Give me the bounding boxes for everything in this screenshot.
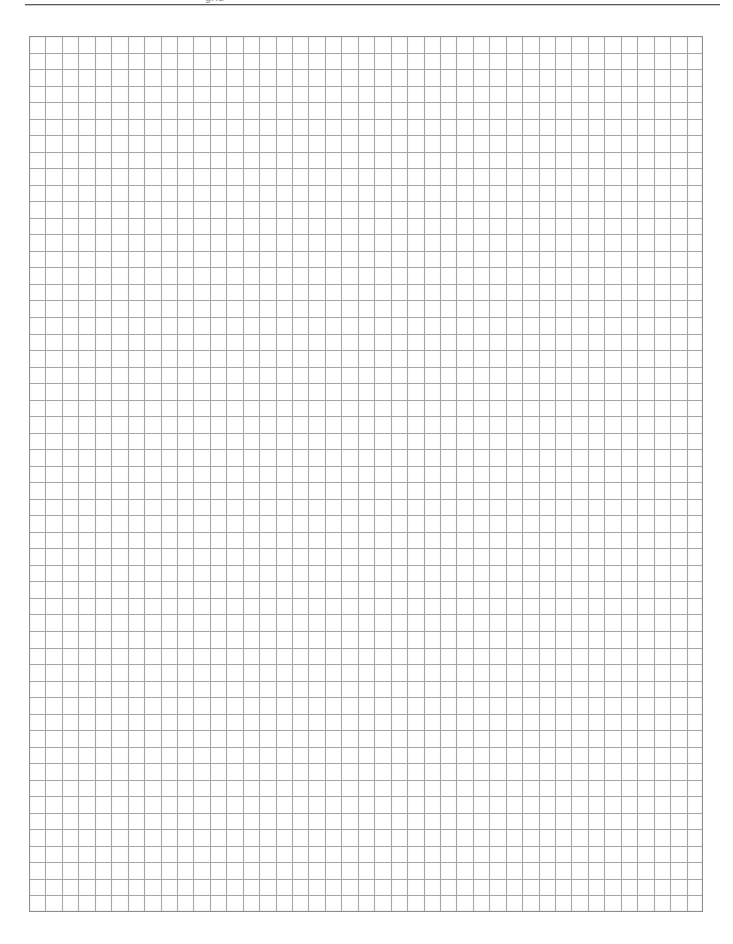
page-top-rule-shadow bbox=[25, 5, 720, 6]
page-header-partial-text: grid bbox=[205, 0, 224, 3]
graph-paper-page: grid bbox=[0, 0, 733, 944]
graph-paper-grid-svg bbox=[29, 36, 703, 912]
graph-paper-grid bbox=[29, 36, 703, 912]
